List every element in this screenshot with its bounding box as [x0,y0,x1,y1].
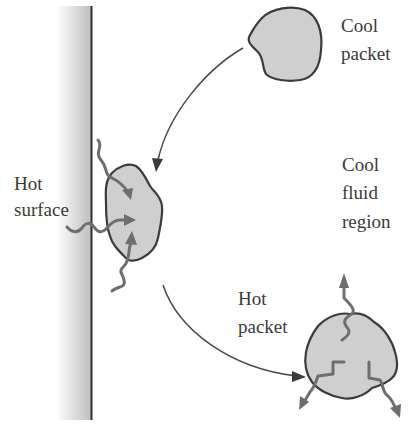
label-hot-packet-line2: packet [238,316,288,337]
cool-packet-blob [249,8,322,81]
arrow-cool-to-wall [152,48,243,172]
label-cool-packet: Cool packet [341,15,391,64]
convection-diagram: Hot surface Cool packet Cool fluid regio… [0,0,420,436]
label-cool-fluid-region-line1: Cool [342,154,379,175]
label-cool-fluid-region-line2: fluid [342,182,378,203]
label-hot-surface-line2: surface [14,199,69,220]
label-cool-fluid-region: Cool fluid region [342,154,391,232]
label-hot-surface-line1: Hot [14,173,43,194]
label-cool-packet-line2: packet [341,43,391,64]
label-cool-fluid-region-line3: region [342,211,391,232]
label-cool-packet-line1: Cool [341,15,378,36]
hot-packet [299,273,401,418]
label-hot-packet: Hot packet [238,288,288,337]
label-hot-packet-line1: Hot [238,288,267,309]
